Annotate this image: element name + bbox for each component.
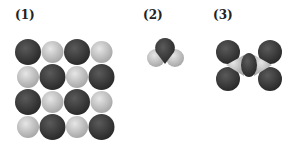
dark-atom-center [241,53,257,77]
lattice-grid [15,39,115,140]
light-atom [17,116,39,138]
dark-atom [89,64,115,90]
light-atom [66,66,88,88]
light-atom [42,91,64,113]
molecule-2 [147,38,184,67]
light-atom [66,116,88,138]
dark-atom [15,39,41,65]
light-atom [17,66,39,88]
dark-atom [15,89,41,115]
dark-atom [40,114,66,140]
light-atom [42,41,64,63]
light-atom [91,41,113,63]
dark-atom [64,89,90,115]
dark-atom [64,39,90,65]
light-atom [91,91,113,113]
molecule-3 [216,40,282,91]
molecule-diagrams [0,0,300,150]
dark-atom [40,64,66,90]
dark-atom [89,114,115,140]
